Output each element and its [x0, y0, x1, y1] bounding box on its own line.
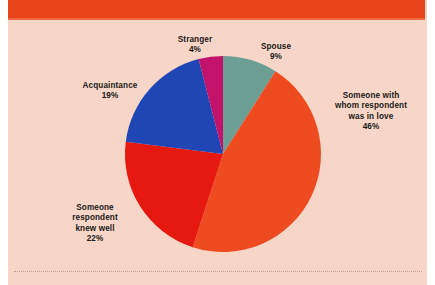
slice-label-knew-well: Someone respondent knew well 22% — [46, 192, 144, 255]
slice-label-spouse-text: Spouse — [261, 42, 291, 51]
slice-label-in-love-text: Someone with whom respondent was in love — [335, 91, 407, 121]
slice-label-acquaintance: Acquaintance 19% — [56, 70, 164, 112]
slice-label-acquaintance-text: Acquaintance — [83, 81, 138, 90]
screenshot-root: Stranger 4% Spouse 9% Someone with whom … — [0, 0, 435, 285]
slice-label-in-love: Someone with whom respondent was in love… — [318, 80, 424, 143]
slice-label-spouse: Spouse 9% — [240, 31, 312, 73]
slice-label-stranger: Stranger 4% — [152, 24, 238, 66]
slice-label-in-love-percent: 46% — [318, 122, 424, 133]
slice-label-stranger-text: Stranger — [178, 35, 212, 44]
slice-label-spouse-percent: 9% — [240, 52, 312, 63]
slice-label-acquaintance-percent: 19% — [56, 91, 164, 102]
slice-label-stranger-percent: 4% — [152, 45, 238, 56]
slice-label-knew-well-percent: 22% — [46, 234, 144, 245]
slice-label-knew-well-text: Someone respondent knew well — [72, 203, 118, 233]
